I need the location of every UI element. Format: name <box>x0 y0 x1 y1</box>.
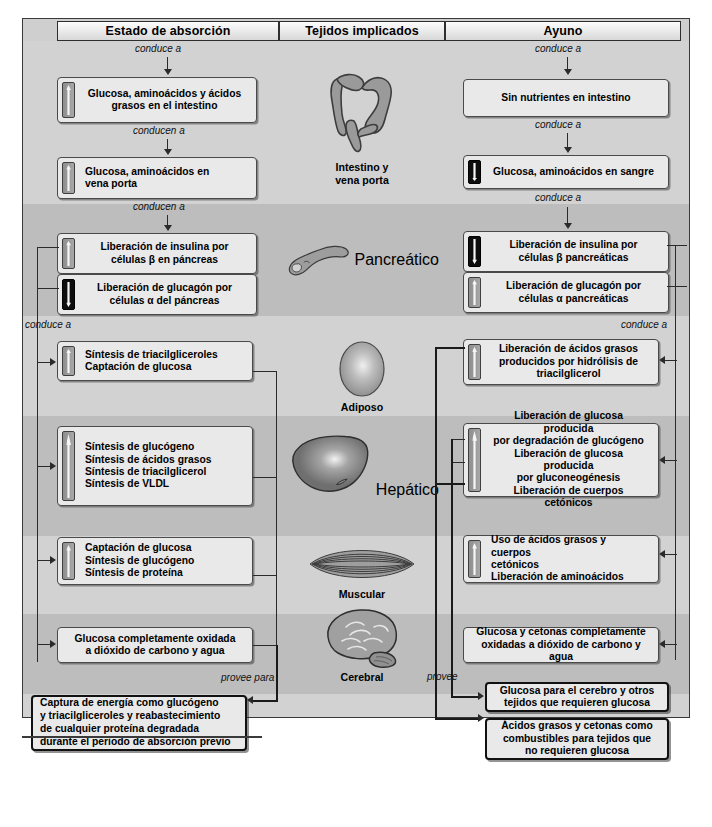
arrowhead-right-2 <box>564 147 572 153</box>
bus-right-trunk <box>675 245 676 660</box>
box-text-line: células α del páncreas <box>85 295 244 307</box>
arrowhead-right-brain <box>659 640 665 648</box>
bus-leftout-trunk-lower <box>276 645 278 701</box>
intestine-icon <box>321 67 403 159</box>
label-right-1: conduce a <box>535 43 581 54</box>
bus-rightout-to-top <box>451 696 481 698</box>
tissue-caption: Hepático <box>376 481 439 499</box>
box-left-intestine: Glucosa, aminoácidos y ácidos grasos en … <box>57 77 257 123</box>
bus-left-to-brain <box>37 644 51 645</box>
indicator-up-icon <box>468 344 481 380</box>
arrowhead-left-1 <box>164 69 172 75</box>
box-text-line: células β pancreáticas <box>491 252 656 264</box>
tissue-caption: Cerebral <box>341 671 384 684</box>
arrowhead-right-liver <box>659 456 665 464</box>
tissue-pancreas: Pancreático <box>285 237 439 283</box>
box-right-brain: Glucosa y cetonas completamente oxidadas… <box>463 627 659 663</box>
arrowhead-left-adipose <box>50 358 56 366</box>
bus-left-tap-glucagon <box>37 288 59 289</box>
indicator-up-icon <box>468 540 481 578</box>
box-text-line: células β en páncreas <box>85 254 244 266</box>
liver-icon <box>285 429 374 501</box>
box-text-line: Liberación de glucagón por <box>491 280 656 292</box>
bus-leftout-brain <box>253 645 277 646</box>
box-text-line: Síntesis de glucógeno <box>85 555 240 567</box>
tissue-brain: Cerebral <box>285 607 439 684</box>
box-text-line: Captura de energía como glucógeno <box>40 697 238 710</box>
box-text-line: Liberación de insulina por <box>491 239 656 251</box>
bus-right-to-muscle <box>663 554 677 555</box>
bus-right-to-brain <box>663 644 677 645</box>
header-tissues: Tejidos implicados <box>279 21 445 41</box>
box-left-glucagon: Liberación de glucagón por células α del… <box>57 274 257 315</box>
caption-line: Intestino y <box>335 161 389 174</box>
bus-left-to-liver <box>37 466 51 467</box>
bus-leftout-liver <box>253 477 277 478</box>
box-right-liver: Liberación de glucosa producida por degr… <box>463 423 659 497</box>
box-text-line: Liberación de glucosa producida <box>491 410 646 435</box>
box-text-line: tejidos que requieren glucosa <box>493 697 661 709</box>
box-left-adipose: Síntesis de triacilgliceroles Captación … <box>57 341 253 381</box>
bus-rightout-cross <box>435 483 465 485</box>
header-absorptive: Estado de absorción <box>57 21 279 41</box>
tissue-intestine: Intestino y vena porta <box>285 67 439 186</box>
bus-rightout-trunk-b <box>451 439 453 697</box>
box-outcome-right-bottom: Ácidos grasos y cetonas como combustible… <box>485 718 669 760</box>
header-fasting: Ayuno <box>445 21 681 41</box>
box-text-line: producidos por hidrólisis de <box>491 356 646 368</box>
footer-rule <box>22 736 262 738</box>
box-text-line: Síntesis de ácidos grasos <box>85 454 240 466</box>
box-text-line: Sin nutrientes en intestino <box>471 92 661 104</box>
indicator-down-icon <box>468 160 481 184</box>
box-text-line: Síntesis de VLDL <box>85 478 240 490</box>
bus-leftout-into-outcome <box>251 700 278 702</box>
adipose-icon <box>332 339 392 399</box>
box-text-line: Liberación de glucosa producida <box>491 448 646 473</box>
arrowhead-right-outcome-bottom <box>478 714 484 722</box>
box-outcome-right-top: Glucosa para el cerebro y otros tejidos … <box>485 682 669 712</box>
box-text-line: combustibles para tejidos que <box>493 733 661 745</box>
tissue-caption: Pancreático <box>355 251 440 269</box>
indicator-up-icon <box>62 238 75 269</box>
label-provee-para: provee para <box>221 672 274 683</box>
box-text-line: Síntesis de triacilgliceroles <box>85 349 240 361</box>
arrowhead-right-outcome-top <box>478 692 484 700</box>
box-text-line: vena porta <box>85 178 244 190</box>
arrowhead-left-brain <box>50 640 56 648</box>
box-text-line: Uso de ácidos grasos y cuerpos <box>491 534 646 559</box>
box-text-line: por gluconeogénesis <box>491 472 646 484</box>
box-text-line: Glucosa, aminoácidos y ácidos <box>85 88 244 100</box>
bus-left-to-adipose <box>37 362 51 363</box>
muscle-icon <box>308 542 416 586</box>
box-text-line: Ácidos grasos y cetonas como <box>493 720 661 732</box>
label-left-1: conduce a <box>135 43 181 54</box>
box-text-line: Glucosa, aminoácidos en sangre <box>491 166 656 178</box>
box-right-adipose: Liberación de ácidos grasos producidos p… <box>463 339 659 385</box>
box-text-line: triacilglicerol <box>491 368 646 380</box>
bus-rightout-adipose <box>435 347 465 349</box>
pancreas-icon <box>285 237 353 283</box>
tissue-caption: Adiposo <box>341 401 383 414</box>
indicator-up-icon <box>62 82 75 118</box>
indicator-up-icon <box>62 431 75 501</box>
indicator-down-icon <box>468 236 481 267</box>
box-text-line: Glucosa, aminoácidos en <box>85 166 244 178</box>
bus-left-trunk <box>37 247 38 662</box>
label-left-3: conducen a <box>133 201 185 212</box>
indicator-down-icon <box>62 279 75 310</box>
box-text-line: a dióxido de carbono y agua <box>65 645 245 657</box>
box-right-glucagon: Liberación de glucagón por células α pan… <box>463 272 669 313</box>
label-right-3: conduce a <box>535 192 581 203</box>
bus-leftout-adipose <box>253 371 277 372</box>
label-right-4: conduce a <box>621 319 667 330</box>
figure-root: Estado de absorción Tejidos implicados A… <box>0 0 712 827</box>
box-text-line: grasos en el intestino <box>85 100 244 112</box>
caption-line: vena porta <box>335 174 389 187</box>
indicator-up-icon <box>62 542 75 580</box>
box-text-line: cetónicos <box>491 559 646 571</box>
box-right-insulin: Liberación de insulina por células β pan… <box>463 231 669 272</box>
box-left-portal: Glucosa, aminoácidos en vena porta <box>57 157 257 199</box>
box-left-muscle: Captación de glucosa Síntesis de glucóge… <box>57 537 253 585</box>
bus-right-tap-insulin <box>667 245 687 246</box>
arrowhead-left-outcome <box>247 696 253 704</box>
